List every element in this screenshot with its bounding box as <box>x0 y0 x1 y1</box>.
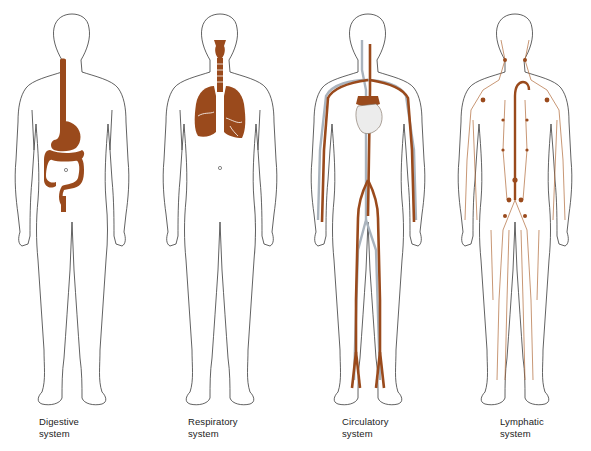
caption-line1: Digestive <box>39 416 79 428</box>
caption-line2: system <box>39 428 79 440</box>
arteries-icon <box>322 44 414 388</box>
caption-line1: Lymphatic <box>500 416 544 428</box>
lungs-trachea-icon <box>195 40 246 138</box>
figure-circulatory-system: Circulatory system <box>296 0 444 410</box>
human-body-outline-icon <box>296 0 444 410</box>
caption-line2: system <box>342 428 389 440</box>
caption-respiratory: Respiratory system <box>188 416 238 439</box>
caption-line1: Circulatory <box>342 416 389 428</box>
caption-line1: Respiratory <box>188 416 238 428</box>
human-body-outline-icon <box>0 0 148 410</box>
caption-circulatory: Circulatory system <box>342 416 389 439</box>
navel-icon <box>218 166 221 169</box>
figure-lymphatic-system: Lymphatic system <box>443 0 591 410</box>
caption-digestive: Digestive system <box>39 416 79 439</box>
caption-line2: system <box>500 428 544 440</box>
figure-respiratory-system: Respiratory system <box>148 0 296 410</box>
figure-digestive-system: Digestive system <box>0 0 148 410</box>
heart-icon <box>356 96 382 134</box>
human-body-outline-icon <box>148 0 296 410</box>
caption-lymphatic: Lymphatic system <box>500 416 544 439</box>
human-body-outline-icon <box>443 0 591 410</box>
navel-icon <box>64 168 67 171</box>
caption-line2: system <box>188 428 238 440</box>
digestive-tract-icon <box>44 59 84 213</box>
